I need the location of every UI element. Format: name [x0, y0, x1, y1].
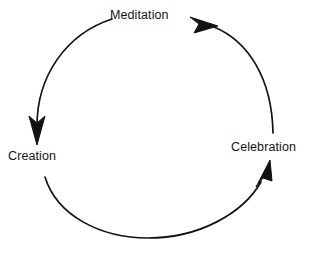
- arrow-into-meditation-head: [190, 17, 218, 33]
- edge-celebration-to-creation-path: [45, 177, 261, 238]
- arrow-into-celebration-head: [256, 160, 272, 187]
- cycle-diagram: Meditation Celebration Creation: [0, 0, 315, 259]
- edge-creation-to-meditation-path: [37, 19, 112, 126]
- edge-celebration-to-creation: [45, 177, 261, 238]
- cycle-diagram-canvas: [0, 0, 315, 259]
- edge-creation-to-meditation: [37, 19, 112, 126]
- node-label-creation: Creation: [8, 150, 56, 163]
- edge-meditation-to-celebration: [214, 27, 273, 133]
- node-label-meditation: Meditation: [110, 9, 169, 22]
- edge-meditation-to-celebration-path: [214, 27, 273, 133]
- node-label-celebration: Celebration: [231, 141, 296, 154]
- arrow-into-meditation: [190, 17, 218, 33]
- arrow-into-celebration: [256, 160, 272, 187]
